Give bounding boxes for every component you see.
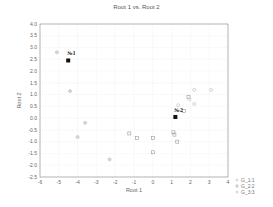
scatter-plot: -6-5-4-3-2-1012344.03.53.02.52.01.51.00.… [0,0,273,207]
y-tick-label: 0.5 [30,103,37,109]
x-tick-label: 3 [208,179,211,185]
centroid-marker [173,115,177,119]
x-tick-label: 4 [227,179,230,185]
x-tick-label: -3 [94,179,99,185]
y-tick-label: 3.5 [30,32,37,38]
data-point-square [135,137,138,140]
x-axis-label: Root 1 [126,187,142,193]
y-tick-label: 1.0 [30,91,37,97]
y-tick-label: -1.5 [28,150,37,156]
legend-marker-circle [236,179,238,181]
data-point-circle [108,158,111,161]
data-point-circle [69,90,72,93]
centroid-label: №2 [174,107,183,113]
x-tick-label: 2 [189,179,192,185]
y-tick-label: 3.0 [30,44,37,50]
x-tick-label: 1 [170,179,173,185]
data-point-square [182,110,185,113]
y-axis-label: Root 2 [16,92,22,108]
y-tick-label: 0.0 [30,115,37,121]
legend-marker-square [236,185,238,187]
data-point-circle [193,103,196,106]
x-tick-label: -6 [38,179,43,185]
y-tick-label: 1.5 [30,80,37,86]
legend-label: G_3:3 [241,189,255,195]
centroid-label: №1 [67,50,76,56]
y-tick-label: -0.5 [28,127,37,133]
legend-marker-circle [236,191,238,193]
data-point-circle [210,88,213,91]
x-tick-label: -5 [57,179,62,185]
x-tick-label: -1 [132,179,137,185]
data-point-circle [55,51,58,54]
x-tick-label: 0 [151,179,154,185]
y-tick-label: -1.0 [28,138,37,144]
y-tick-label: 4.0 [30,21,37,27]
x-tick-label: -2 [113,179,118,185]
data-point-square [128,132,131,135]
y-tick-label: -2.5 [28,174,37,180]
y-tick-label: 2.0 [30,68,37,74]
data-point-circle [193,88,196,91]
x-tick-label: -4 [75,179,80,185]
data-point-circle [84,121,87,124]
data-point-circle [76,135,79,138]
y-tick-label: 2.5 [30,56,37,62]
centroid-marker [66,58,70,62]
y-tick-label: -2.0 [28,162,37,168]
